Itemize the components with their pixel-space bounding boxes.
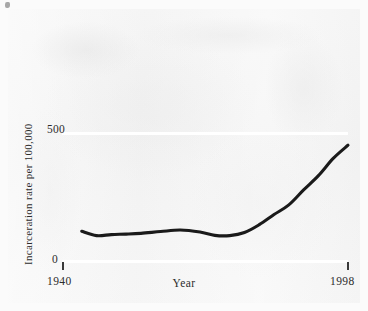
chart-figure: 500 0 1940 1998 Year Incarceration rate … xyxy=(0,0,368,311)
series-layer xyxy=(0,0,368,311)
series-line-incarceration-rate xyxy=(82,145,348,236)
